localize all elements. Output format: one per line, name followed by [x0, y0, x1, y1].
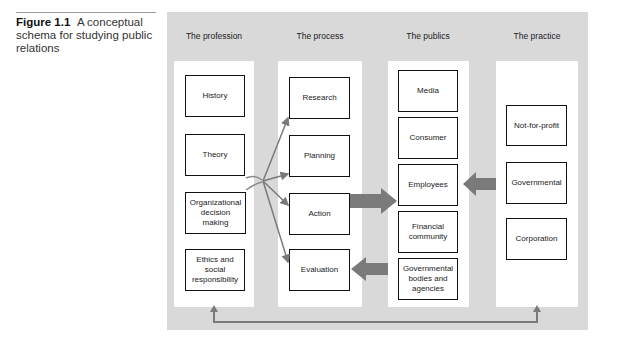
box-financial-community: Financial community: [398, 211, 458, 253]
box-ethics-social-responsibility: Ethics and social responsibility: [185, 249, 245, 291]
box-governmental: Governmental: [506, 162, 567, 204]
box-organizational-decision-making: Organizational decision making: [185, 192, 246, 234]
column-header-profession: The profession: [169, 31, 259, 41]
figure-caption: Figure 1.1 A conceptual schema for study…: [16, 16, 166, 55]
box-not-for-profit: Not-for-profit: [506, 105, 567, 146]
box-planning: Planning: [289, 135, 350, 177]
box-theory: Theory: [185, 134, 245, 176]
column-header-practice: The practice: [492, 31, 582, 41]
box-history: History: [185, 75, 245, 117]
box-employees: Employees: [398, 164, 458, 206]
box-research: Research: [289, 77, 350, 119]
column-header-process: The process: [275, 31, 365, 41]
figure-label: Figure 1.1: [16, 16, 70, 28]
box-governmental-bodies-agencies: Governmental bodies and agencies: [398, 258, 458, 300]
box-corporation: Corporation: [506, 218, 567, 260]
box-evaluation: Evaluation: [289, 249, 350, 291]
box-action: Action: [289, 193, 350, 235]
box-media: Media: [398, 70, 458, 112]
box-consumer: Consumer: [398, 117, 458, 159]
caption-rule: [16, 12, 156, 13]
column-header-publics: The publics: [383, 31, 473, 41]
